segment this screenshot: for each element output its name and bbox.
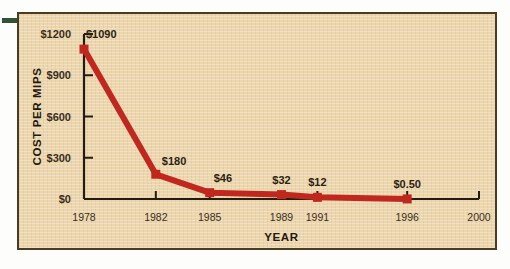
data-point-label: $1090 xyxy=(86,28,117,40)
x-axis-tick-label: 1991 xyxy=(306,211,330,223)
y-axis-tick-label: $0 xyxy=(59,193,71,205)
data-point-label: $12 xyxy=(308,176,326,188)
y-axis-tick-label: $600 xyxy=(47,111,71,123)
y-axis-title: COST PER MIPS xyxy=(31,68,43,166)
line-chart-plot: $0$300$600$900$1200197819821985198919911… xyxy=(19,14,495,248)
x-axis-tick-label: 1996 xyxy=(396,211,420,223)
data-point-label: $0.50 xyxy=(393,178,421,190)
x-axis-tick-label: 1985 xyxy=(198,211,222,223)
data-point-marker[interactable] xyxy=(313,193,322,202)
x-axis-tick-label: 1982 xyxy=(144,211,168,223)
data-point-marker[interactable] xyxy=(277,190,286,199)
x-axis-tick-label: 2000 xyxy=(467,211,491,223)
y-axis-tick-label: $1200 xyxy=(40,28,71,40)
data-point-marker[interactable] xyxy=(151,170,160,179)
x-axis-title: YEAR xyxy=(264,231,298,243)
chart-frame: $0$300$600$900$1200197819821985198919911… xyxy=(17,12,497,250)
y-axis-tick-label: $900 xyxy=(47,69,71,81)
x-axis-tick-label: 1978 xyxy=(72,211,96,223)
data-point-marker[interactable] xyxy=(403,194,412,203)
y-axis-tick-label: $300 xyxy=(47,152,71,164)
data-point-marker[interactable] xyxy=(205,188,214,197)
data-series-line xyxy=(84,49,407,199)
data-point-label: $32 xyxy=(272,174,290,186)
chart-screenshot: $0$300$600$900$1200197819821985198919911… xyxy=(0,0,510,269)
data-point-label: $46 xyxy=(214,172,232,184)
data-point-label: $180 xyxy=(162,155,186,167)
x-axis-tick-label: 1989 xyxy=(270,211,294,223)
data-point-marker[interactable] xyxy=(80,45,89,54)
